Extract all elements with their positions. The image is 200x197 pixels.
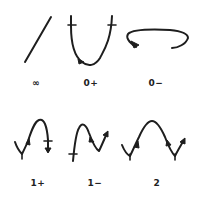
panel-zero-minus-curve [127,30,188,48]
arrow-icon [166,140,171,146]
panel-zero-plus-curve [68,16,116,65]
label-zero-minus: 0− [149,78,164,88]
arrow-icon [131,41,139,48]
arrow-icon [45,148,51,153]
arrow-icon [180,138,185,144]
label-one-plus: 1+ [31,178,46,188]
panel-one-minus-curve [69,125,108,161]
label-one-minus: 1− [88,178,103,188]
panel-inf-curve [25,17,51,62]
label-two: 2 [154,178,161,188]
arrow-icon [103,131,108,137]
panel-one-plus-curve [15,120,52,159]
curve-types-diagram [0,0,200,197]
panel-two-curve [122,121,185,160]
label-zero-plus: 0+ [84,78,99,88]
arrow-icon [26,138,30,145]
label-inf: ∞ [32,78,40,88]
